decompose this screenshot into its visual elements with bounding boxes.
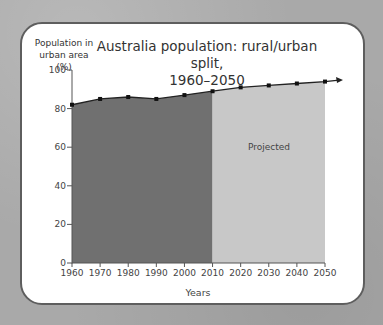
projected-annotation: Projected [248, 142, 290, 152]
x-tick-label: 2020 [229, 268, 252, 278]
x-tick-label: 2030 [257, 268, 280, 278]
x-tick-label: 2050 [314, 268, 337, 278]
data-point-marker [267, 83, 271, 87]
y-tick-label: 0 [60, 258, 66, 268]
data-point-marker [98, 97, 102, 101]
data-point-marker [211, 89, 215, 93]
x-axis-label: Years [184, 287, 210, 298]
x-tick-label: 2040 [285, 268, 308, 278]
x-tick-label: 2010 [201, 268, 224, 278]
x-tick-label: 2000 [173, 268, 196, 278]
y-tick-label: 60 [55, 142, 67, 152]
arrow-head-icon [336, 77, 343, 83]
y-tick-label: 40 [55, 181, 67, 191]
x-tick-label: 1970 [89, 268, 112, 278]
area-projected [213, 82, 325, 263]
data-point-marker [239, 85, 243, 89]
plot-area: Projected0204060801001960197019801990200… [0, 0, 383, 325]
data-point-marker [126, 95, 130, 99]
data-point-marker [182, 93, 186, 97]
data-point-marker [70, 103, 74, 107]
x-tick-label: 1990 [145, 268, 168, 278]
y-tick-label: 20 [55, 219, 67, 229]
data-point-marker [154, 97, 158, 101]
x-tick-label: 1980 [117, 268, 140, 278]
y-tick-label: 80 [55, 104, 67, 114]
x-tick-label: 1960 [61, 268, 84, 278]
area-fills [72, 82, 325, 263]
data-point-marker [295, 82, 299, 86]
data-point-marker [323, 80, 327, 84]
area-historical [72, 91, 213, 263]
y-tick-label: 100 [49, 65, 66, 75]
